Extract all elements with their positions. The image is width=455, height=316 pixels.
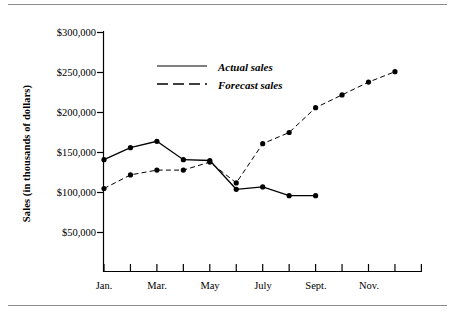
chart-plot-area — [0, 0, 455, 316]
figure-container: Sales (in thousands of dollars) $300,000… — [0, 0, 455, 316]
axis-lines — [103, 31, 422, 272]
series-forecast-sales — [101, 69, 397, 191]
series-actual-sales — [101, 139, 318, 199]
x-axis-ticks — [104, 264, 421, 272]
legend-swatches — [157, 66, 207, 84]
